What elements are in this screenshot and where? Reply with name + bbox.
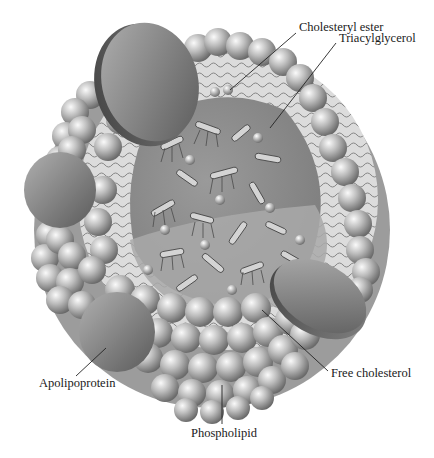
lipoprotein-diagram: Cholesteryl ester Triacylglycerol Apolip… [0, 0, 434, 458]
label-apolipoprotein: Apolipoprotein [39, 377, 115, 390]
apolipoprotein-disc-bottom-left [79, 292, 155, 372]
label-free-cholesterol: Free cholesterol [331, 367, 411, 380]
label-triacylglycerol: Triacylglycerol [339, 32, 416, 45]
label-phospholipid: Phospholipid [191, 427, 257, 440]
apolipoprotein-disc-left [24, 152, 96, 228]
